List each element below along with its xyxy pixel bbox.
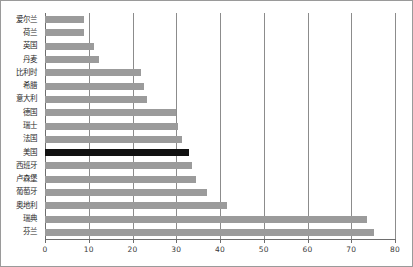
plot-area (45, 13, 395, 239)
category-label: 芬兰 (23, 228, 37, 236)
x-tick-label-50: 50 (259, 245, 269, 254)
category-label: 意大利 (16, 95, 37, 103)
gridline-80 (395, 13, 396, 239)
category-label: 西班牙 (16, 162, 37, 170)
bar (45, 29, 84, 36)
bar (45, 83, 144, 90)
category-label: 英国 (23, 42, 37, 50)
x-tick-80 (395, 239, 396, 243)
category-label: 丹麦 (23, 56, 37, 64)
x-tick-20 (133, 239, 134, 243)
x-tick-50 (264, 239, 265, 243)
bar (45, 136, 182, 143)
x-tick-label-80: 80 (390, 245, 400, 254)
category-label: 葡萄牙 (16, 188, 37, 196)
gridline-50 (264, 13, 265, 239)
bar (45, 149, 189, 156)
gridline-70 (351, 13, 352, 239)
bar (45, 109, 176, 116)
x-tick-label-70: 70 (346, 245, 356, 254)
x-tick-40 (220, 239, 221, 243)
x-tick-70 (351, 239, 352, 243)
category-label: 瑞士 (23, 122, 37, 130)
category-label: 爱尔兰 (16, 16, 37, 24)
bar (45, 16, 84, 23)
bar (45, 229, 374, 236)
x-tick-60 (308, 239, 309, 243)
x-tick-label-10: 10 (84, 245, 94, 254)
x-tick-label-20: 20 (128, 245, 138, 254)
bar (45, 123, 178, 130)
x-tick-label-60: 60 (303, 245, 313, 254)
category-label: 法国 (23, 135, 37, 143)
chart-container: 01020304050607080爱尔兰荷兰英国丹麦比利时希腊意大利德国瑞士法国… (0, 0, 413, 267)
bar (45, 189, 207, 196)
x-tick-label-0: 0 (43, 245, 48, 254)
bar (45, 202, 227, 209)
category-label: 德国 (23, 109, 37, 117)
bar (45, 43, 94, 50)
x-tick-0 (45, 239, 46, 243)
x-tick-30 (176, 239, 177, 243)
category-label: 荷兰 (23, 29, 37, 37)
bar (45, 96, 147, 103)
bar (45, 216, 367, 223)
x-tick-label-40: 40 (215, 245, 225, 254)
gridline-60 (308, 13, 309, 239)
x-tick-label-30: 30 (171, 245, 181, 254)
category-label: 希腊 (23, 82, 37, 90)
category-label: 比利时 (16, 69, 37, 77)
bar (45, 176, 196, 183)
bar (45, 69, 141, 76)
category-label: 奥地利 (16, 202, 37, 210)
category-label: 瑞典 (23, 215, 37, 223)
bar (45, 56, 99, 63)
bar (45, 162, 192, 169)
x-tick-10 (89, 239, 90, 243)
category-label: 美国 (23, 149, 37, 157)
category-label: 卢森堡 (16, 175, 37, 183)
